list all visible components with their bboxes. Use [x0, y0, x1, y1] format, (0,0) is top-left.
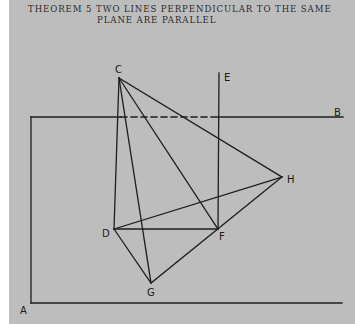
line-CF: [119, 78, 218, 229]
point-label-A: A: [20, 305, 27, 316]
line-DG: [114, 229, 151, 283]
point-label-F: F: [219, 231, 225, 242]
point-label-D: D: [102, 228, 110, 239]
point-label-H: H: [287, 174, 295, 185]
line-GH: [151, 177, 282, 283]
point-label-G: G: [147, 287, 155, 298]
geometry-figure: A B C D E F G H: [0, 0, 355, 324]
line-CG: [119, 78, 151, 283]
point-label-E: E: [224, 72, 230, 83]
line-EF: [218, 73, 219, 229]
line-DH: [114, 177, 282, 229]
line-CD: [114, 78, 119, 229]
line-CH: [119, 78, 282, 177]
point-label-C: C: [115, 64, 122, 75]
point-label-B: B: [334, 107, 341, 118]
